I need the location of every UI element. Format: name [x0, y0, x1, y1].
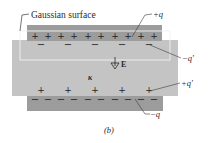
- svg-text:−: −: [57, 94, 65, 105]
- gaussian-surface-label: Gaussian surface: [31, 10, 96, 20]
- svg-text:−: −: [91, 39, 99, 50]
- svg-text:−: −: [150, 94, 158, 105]
- minus-q-prime-label: −q′: [182, 53, 194, 63]
- minus-q-label: −q: [150, 109, 161, 119]
- svg-text:−: −: [44, 94, 52, 105]
- svg-text:−: −: [124, 94, 132, 105]
- svg-text:−: −: [84, 94, 92, 105]
- svg-text:−: −: [37, 39, 45, 50]
- capacitor-diagram: + + + + + + + + + + − − − − − E κ + + + …: [0, 0, 216, 143]
- plus-q-label: +q: [153, 9, 164, 19]
- svg-text:−: −: [70, 94, 78, 105]
- svg-text:−: −: [118, 39, 126, 50]
- figure-caption: (b): [104, 125, 114, 135]
- svg-text:+: +: [44, 31, 52, 41]
- svg-text:−: −: [64, 39, 72, 50]
- svg-text:−: −: [31, 94, 39, 105]
- svg-text:−: −: [145, 39, 153, 50]
- svg-text:+: +: [137, 31, 145, 41]
- field-label: E: [121, 60, 126, 69]
- svg-text:−: −: [97, 94, 105, 105]
- plus-q-prime-label: +q′: [181, 78, 193, 88]
- svg-text:−: −: [111, 94, 119, 105]
